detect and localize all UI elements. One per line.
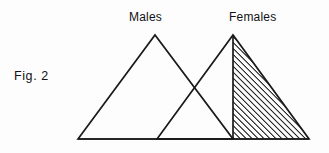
- figure-caption: Fig. 2: [14, 69, 49, 83]
- label-males: Males: [129, 10, 162, 24]
- figure-container: Males Females Fig. 2: [0, 0, 329, 153]
- label-females: Females: [229, 10, 276, 24]
- overlapping-distributions-diagram: [0, 0, 329, 153]
